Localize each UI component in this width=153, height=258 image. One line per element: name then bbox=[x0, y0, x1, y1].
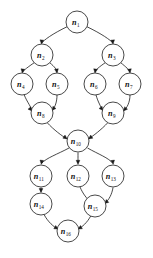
graph-node-n11[interactable]: n11 bbox=[30, 165, 52, 187]
graph-canvas: n1n2n3n4n5n6n7n8n9n10n11n12n13n14n15n16 bbox=[0, 0, 153, 258]
arrowhead-n8-to-n10 bbox=[63, 135, 67, 139]
graph-figure: n1n2n3n4n5n6n7n8n9n10n11n12n13n14n15n16 bbox=[0, 0, 153, 258]
arrowhead-n2-to-n4 bbox=[21, 69, 25, 73]
graph-node-n7[interactable]: n7 bbox=[119, 73, 141, 95]
edge-n1-to-n2 bbox=[42, 27, 68, 44]
arrowhead-n10-to-n12 bbox=[76, 160, 80, 164]
graph-node-n16[interactable]: n16 bbox=[57, 220, 79, 242]
graph-node-n3[interactable]: n3 bbox=[102, 44, 124, 66]
graph-node-n13[interactable]: n13 bbox=[102, 165, 124, 187]
graph-node-n8[interactable]: n8 bbox=[31, 102, 53, 124]
arrowhead-n3-to-n7 bbox=[128, 69, 132, 73]
graph-node-n6[interactable]: n6 bbox=[84, 73, 106, 95]
edge-n8-to-n10 bbox=[47, 123, 67, 139]
graph-node-n9[interactable]: n9 bbox=[102, 102, 124, 124]
graph-node-n5[interactable]: n5 bbox=[46, 73, 68, 95]
edge-n10-to-n11 bbox=[42, 148, 70, 164]
graph-node-n1[interactable]: n1 bbox=[66, 11, 88, 33]
graph-node-n10[interactable]: n10 bbox=[67, 130, 89, 152]
edge-n9-to-n10 bbox=[89, 123, 108, 139]
arrowhead-n9-to-n10 bbox=[89, 135, 93, 139]
edge-n1-to-n3 bbox=[87, 27, 114, 44]
nodes-layer: n1n2n3n4n5n6n7n8n9n10n11n12n13n14n15n16 bbox=[11, 11, 141, 242]
graph-node-n14[interactable]: n14 bbox=[30, 193, 52, 215]
arrowhead-n2-to-n5 bbox=[55, 69, 59, 73]
graph-node-n2[interactable]: n2 bbox=[31, 44, 53, 66]
arrowhead-n11-to-n14 bbox=[39, 189, 43, 193]
graph-node-n15[interactable]: n15 bbox=[84, 195, 106, 217]
graph-node-n4[interactable]: n4 bbox=[11, 73, 33, 95]
arrowhead-n3-to-n6 bbox=[94, 69, 98, 73]
arrowhead-n1-to-n2 bbox=[40, 40, 44, 44]
edge-n2-to-n4 bbox=[22, 63, 34, 73]
edge-n10-to-n13 bbox=[88, 148, 114, 164]
graph-node-n12[interactable]: n12 bbox=[67, 165, 89, 187]
